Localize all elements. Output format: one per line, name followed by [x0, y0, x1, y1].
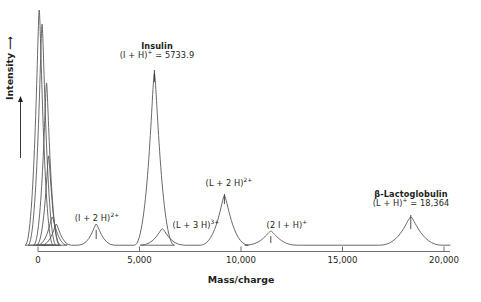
x-axis-tick-label: 10,000 — [226, 256, 256, 266]
x-axis-tick-label: 5,000 — [127, 256, 152, 266]
spectrum-trace — [25, 10, 450, 245]
mass-spectrum-figure: Insulin (I + H)+ = 5733.9 β-Lactoglobuli… — [0, 0, 481, 302]
annotation-lactoglobulin-3plus: (L + 3 H)3+ — [173, 221, 220, 230]
annotation-lactoglobulin-formula: (L + H)+ = 18,364 — [373, 199, 450, 208]
annotation-insulin-dimer-formula: (2 I + H)+ — [267, 221, 308, 230]
annotation-lactoglobulin-2plus: (L + 2 H)2+ — [206, 179, 253, 188]
x-axis-ticks — [38, 247, 444, 252]
x-axis-tick-label: 0 — [35, 256, 40, 266]
annotation-lactoglobulin: β-Lactoglobulin (L + H)+ = 18,364 — [373, 190, 450, 209]
annotation-insulin-2plus-formula: (I + 2 H)2+ — [75, 214, 120, 223]
charge-superscript: 3+ — [211, 219, 220, 225]
y-axis-title: Intensity ⟶ — [4, 0, 15, 100]
charge-superscript: 2+ — [110, 212, 119, 218]
x-axis-tick-label: 15,000 — [327, 256, 357, 266]
x-axis-tick-label: 20,000 — [429, 256, 459, 266]
annotation-lactoglobulin-2plus-formula: (L + 2 H)2+ — [206, 179, 253, 188]
charge-superscript: 2+ — [244, 177, 253, 183]
annotation-lactoglobulin-3plus-formula: (L + 3 H)3+ — [173, 221, 220, 230]
annotation-insulin-2plus: (I + 2 H)2+ — [75, 214, 120, 223]
x-axis-title: Mass/charge — [208, 275, 275, 286]
annotation-insulin-formula: (I + H)+ = 5733.9 — [120, 51, 194, 60]
y-axis-arrowhead-icon — [18, 96, 23, 102]
annotation-insulin-dimer: (2 I + H)+ — [267, 221, 308, 230]
charge-superscript: + — [302, 219, 307, 225]
annotation-insulin: Insulin (I + H)+ = 5733.9 — [120, 42, 194, 61]
